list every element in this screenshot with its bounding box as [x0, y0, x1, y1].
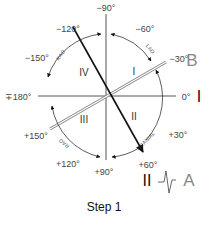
marker-B: B [186, 51, 197, 70]
label-zero: 0° [182, 92, 191, 102]
arc-top-right [111, 34, 151, 61]
quadrant-I: I [133, 66, 136, 77]
marker-A: A [183, 171, 195, 190]
step-caption: Step 1 [0, 200, 208, 214]
arc-right [146, 70, 163, 140]
hexaxial-diagram: −90° −60° −30° 0° +30° +60° +90° +120° +… [0, 0, 208, 227]
quadrant-IV: IV [79, 67, 89, 78]
marker-lead-I: I [197, 88, 201, 105]
arc-label-bottom-right: CRANIAL [135, 130, 156, 151]
ecg-waveform-icon [158, 171, 176, 193]
label-minus-120: −120° [56, 24, 80, 34]
label-plus-90: +90° [95, 167, 114, 177]
quadrant-II: II [131, 111, 137, 122]
marker-lead-II: II [143, 172, 152, 189]
arc-label-top-right: LAO [145, 43, 156, 55]
axis-vector-arrow [73, 27, 143, 152]
label-plus-150: +150° [24, 131, 48, 141]
quadrant-III: III [80, 114, 88, 125]
label-minus-90: −90° [97, 3, 116, 13]
label-pm-180: ∓180° [5, 92, 32, 102]
label-plus-30: +30° [169, 130, 188, 140]
label-minus-150: −150° [25, 53, 49, 63]
label-minus-60: −60° [136, 24, 155, 34]
label-plus-120: +120° [56, 159, 80, 169]
label-plus-60: +60° [139, 160, 158, 170]
arc-bottom-right [112, 148, 139, 157]
